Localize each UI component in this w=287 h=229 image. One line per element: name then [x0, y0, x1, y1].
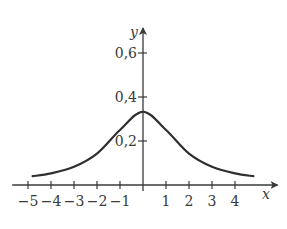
x-tick-label: 1	[162, 193, 171, 209]
x-tick-label: −1	[110, 193, 131, 209]
x-tick-label: −3	[64, 193, 85, 209]
x-tick-label: −5	[18, 193, 39, 209]
x-tick-label: 3	[208, 193, 217, 209]
x-axis-label: x	[262, 186, 270, 202]
x-tick-label: 4	[231, 193, 240, 209]
y-axis-label: y	[129, 24, 139, 40]
axes	[12, 28, 277, 191]
y-tick-label: 0,6	[115, 45, 137, 61]
x-tick-label: 2	[185, 193, 194, 209]
x-tick-label: −4	[41, 193, 62, 209]
y-tick-label: 0,4	[115, 89, 137, 105]
y-tick-label: 0,2	[115, 133, 137, 149]
x-tick-label: −2	[87, 193, 108, 209]
chart: −5−4−3−2−112340,20,40,6xy	[0, 0, 287, 229]
labels: −5−4−3−2−112340,20,40,6xy	[18, 24, 270, 209]
